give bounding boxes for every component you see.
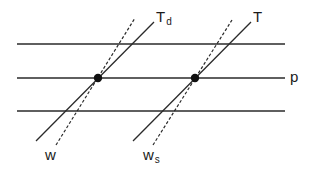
- label-td: Td: [156, 8, 172, 27]
- label-td-main: T: [156, 8, 165, 25]
- intersection-dot-1: [94, 74, 102, 82]
- intersection-dot-2: [191, 74, 199, 82]
- label-w: w: [44, 146, 56, 163]
- label-p: p: [290, 68, 298, 85]
- solid-line-t: [133, 22, 251, 141]
- label-ws-sub: s: [155, 154, 160, 165]
- diagram-svg: Td T p w ws: [0, 0, 312, 170]
- label-ws-main: w: [142, 146, 154, 163]
- solid-line-td: [36, 22, 154, 141]
- label-t: T: [253, 8, 262, 25]
- dashed-line-ws: [153, 20, 232, 145]
- diagram-canvas: Td T p w ws: [0, 0, 312, 170]
- label-ws: ws: [142, 146, 160, 165]
- label-td-sub: d: [166, 16, 172, 27]
